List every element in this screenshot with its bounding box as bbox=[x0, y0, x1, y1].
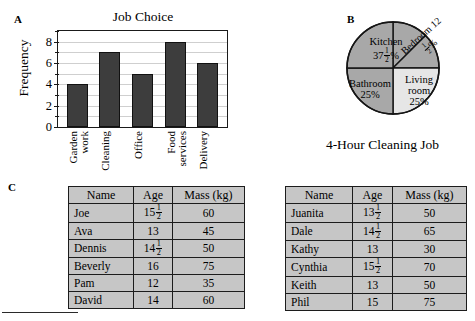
cell-mass: 50 bbox=[392, 204, 466, 223]
cell-name: David bbox=[69, 292, 134, 309]
table-row: Phil1575 bbox=[286, 293, 467, 310]
pie-label-living-room: Living room 25% bbox=[400, 74, 438, 107]
cell-mass: 70 bbox=[392, 258, 466, 277]
bar-office: Office bbox=[132, 74, 153, 127]
cell-age: 13 bbox=[352, 276, 392, 293]
cell-name: Kathy bbox=[286, 241, 353, 258]
bar-chart-plot-area: 02468 GardenworkCleaningOfficeFoodservic… bbox=[57, 30, 228, 128]
table-row: Juanita131250 bbox=[286, 204, 467, 223]
table-row: Pam1235 bbox=[69, 275, 245, 292]
cell-age: 13 bbox=[352, 241, 392, 258]
bar-chart-y-axis-label: Frequency bbox=[16, 23, 32, 113]
x-tick-label-line: Food bbox=[166, 131, 177, 166]
cell-name: Juanita bbox=[286, 204, 353, 223]
cell-mass: 35 bbox=[172, 275, 244, 292]
table-row: Dennis141250 bbox=[69, 239, 245, 258]
cell-age: 1412 bbox=[352, 222, 392, 241]
cell-name: Joe bbox=[69, 204, 134, 223]
pie-chart-graphic: Kitchen 3712% Bedroom 1212% Living room … bbox=[345, 20, 441, 116]
bar-garden-work: Gardenwork bbox=[67, 84, 88, 127]
panel-letter-c: C bbox=[8, 181, 16, 193]
x-tick-label: Office bbox=[133, 131, 144, 159]
y-tick-label: 8 bbox=[46, 35, 52, 48]
cell-age: 1312 bbox=[352, 204, 392, 223]
bar-chart-bars: GardenworkCleaningOfficeFoodservicesDeli… bbox=[58, 31, 227, 127]
pie-label-bathroom: Bathroom 25% bbox=[347, 78, 393, 100]
table-row: Dale141265 bbox=[286, 222, 467, 241]
cell-age: 1512 bbox=[134, 204, 173, 223]
data-table-right: Name Age Mass (kg) Juanita131250Dale1412… bbox=[285, 186, 467, 311]
pie-label-kitchen-value-int: 37 bbox=[373, 50, 384, 61]
bar-food-services: Foodservices bbox=[165, 42, 186, 127]
y-tick-label: 4 bbox=[46, 78, 52, 91]
table-header-age: Age bbox=[134, 187, 173, 204]
table-header-mass: Mass (kg) bbox=[172, 187, 244, 204]
cell-name: Keith bbox=[286, 276, 353, 293]
cell-name: Ava bbox=[69, 222, 134, 239]
table-header-name: Name bbox=[69, 187, 134, 204]
cell-age: 1412 bbox=[134, 239, 173, 258]
bar-chart-title: Job Choice bbox=[57, 9, 229, 25]
cell-mass: 50 bbox=[172, 239, 244, 258]
pie-chart-caption: 4-Hour Cleaning Job bbox=[290, 137, 475, 153]
cell-name: Phil bbox=[286, 293, 353, 310]
y-tick-mark bbox=[54, 127, 59, 128]
data-table-left: Name Age Mass (kg) Joe151260Ava1345Denni… bbox=[68, 186, 245, 309]
cell-age-fraction: 12 bbox=[156, 204, 162, 222]
cell-age-fraction: 12 bbox=[375, 223, 381, 241]
table-header-mass: Mass (kg) bbox=[392, 187, 466, 204]
cell-age: 1512 bbox=[352, 258, 392, 277]
table-row: Kathy1330 bbox=[286, 241, 467, 258]
table-header-row: Name Age Mass (kg) bbox=[286, 187, 467, 204]
cell-name: Dale bbox=[286, 222, 353, 241]
x-tick-label-line: services bbox=[177, 131, 188, 166]
table-row: Keith1350 bbox=[286, 276, 467, 293]
cell-name: Dennis bbox=[69, 239, 134, 258]
cell-age: 16 bbox=[134, 258, 173, 275]
pie-label-bedroom-value-int: 12 bbox=[428, 15, 443, 30]
cell-mass: 65 bbox=[392, 222, 466, 241]
cell-age-fraction: 12 bbox=[156, 240, 162, 258]
cell-age-fraction: 12 bbox=[375, 204, 381, 222]
x-tick-label: Cleaning bbox=[100, 131, 111, 171]
table-row: Joe151260 bbox=[69, 204, 245, 223]
cell-age: 14 bbox=[134, 292, 173, 309]
cell-mass: 75 bbox=[172, 258, 244, 275]
x-tick-label: Delivery bbox=[198, 131, 209, 169]
y-tick-label: 2 bbox=[46, 99, 52, 112]
table-row: Ava1345 bbox=[69, 222, 245, 239]
pie-label-living-room-value: 25% bbox=[409, 96, 428, 107]
bar-delivery: Delivery bbox=[197, 63, 218, 127]
cell-name: Pam bbox=[69, 275, 134, 292]
pie-label-kitchen-fraction: 12 bbox=[384, 47, 390, 63]
footnote-rule bbox=[2, 312, 78, 313]
cell-mass: 60 bbox=[172, 292, 244, 309]
x-tick-label-line: work bbox=[79, 131, 90, 163]
y-tick-label: 0 bbox=[46, 121, 52, 134]
pie-label-living-room-name-1: Living bbox=[405, 74, 433, 85]
pie-label-living-room-name-2: room bbox=[408, 85, 430, 96]
cell-age: 12 bbox=[134, 275, 173, 292]
pie-label-bathroom-name: Bathroom bbox=[349, 78, 391, 89]
cell-age-fraction: 12 bbox=[375, 258, 381, 276]
table-row: Cynthia151270 bbox=[286, 258, 467, 277]
cell-mass: 75 bbox=[392, 293, 466, 310]
table-row: David1460 bbox=[69, 292, 245, 309]
table-header-age: Age bbox=[352, 187, 392, 204]
cell-mass: 60 bbox=[172, 204, 244, 223]
pie-label-bathroom-value: 25% bbox=[360, 89, 379, 100]
cell-age: 15 bbox=[352, 293, 392, 310]
x-tick-label: Gardenwork bbox=[68, 131, 90, 163]
x-tick-label: Foodservices bbox=[166, 131, 188, 166]
pie-chart-panel: B Kitchen 3712% Bedroom 1212% Living roo… bbox=[290, 0, 475, 175]
cell-age: 13 bbox=[134, 222, 173, 239]
cell-mass: 45 bbox=[172, 222, 244, 239]
bar-chart-panel: A Job Choice Frequency 02468 GardenworkC… bbox=[0, 0, 250, 175]
x-tick-label-line: Delivery bbox=[198, 131, 209, 169]
cell-name: Beverly bbox=[69, 258, 134, 275]
y-tick-label: 6 bbox=[46, 57, 52, 70]
table-header-row: Name Age Mass (kg) bbox=[69, 187, 245, 204]
cell-mass: 30 bbox=[392, 241, 466, 258]
table-header-name: Name bbox=[286, 187, 353, 204]
cell-name: Cynthia bbox=[286, 258, 353, 277]
